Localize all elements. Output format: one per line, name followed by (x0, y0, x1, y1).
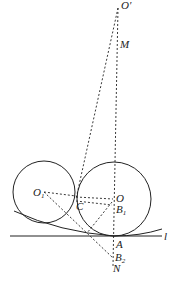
dashed-Oprime-N (113, 8, 118, 266)
label-B1: B1 (116, 203, 126, 217)
label-O-prime: O′ (121, 0, 132, 11)
label-O1: O1 (33, 186, 44, 200)
label-N: N (112, 262, 121, 274)
dashed-O1-C (44, 192, 76, 196)
label-A: A (115, 238, 123, 250)
tangent-curve (14, 211, 162, 236)
dashed-Oprime-C (76, 8, 118, 199)
dashed-O-tangent (87, 202, 112, 233)
dashed-C-O (76, 197, 113, 199)
label-C: C (76, 200, 84, 212)
label-l: l (164, 230, 167, 242)
label-M: M (119, 38, 130, 50)
geometry-diagram: O′ M O1 C O B1 A B2 N l (0, 0, 174, 288)
